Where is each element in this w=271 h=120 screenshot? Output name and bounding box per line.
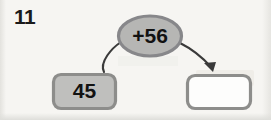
worksheet-problem-canvas: 11 +56 45	[0, 0, 271, 120]
connector-line-in	[103, 42, 121, 72]
arrow-diagram: +56 45	[0, 0, 271, 120]
start-value-label: 45	[73, 79, 97, 102]
operator-label: +56	[132, 24, 168, 47]
arrowhead-icon	[204, 62, 216, 72]
answer-box[interactable]	[188, 76, 251, 109]
